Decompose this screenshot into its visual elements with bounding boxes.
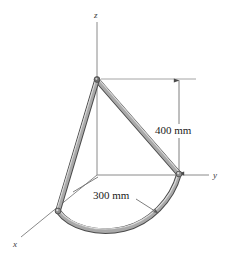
radius-dimension-label: 300 mm	[93, 189, 130, 201]
rod-x-axis-joint	[55, 208, 61, 214]
figure-canvas: z y x 400 mm	[0, 0, 230, 266]
engineering-diagram: z y x 400 mm	[0, 0, 230, 266]
height-dimension-label: 400 mm	[155, 124, 192, 136]
z-axis-label: z	[93, 10, 98, 20]
y-axis-label: y	[212, 170, 217, 180]
rod-apex-joint	[94, 77, 100, 83]
x-axis-label: x	[12, 239, 17, 249]
rod-y-axis-joint	[176, 171, 182, 177]
rod-semicircular-arc	[58, 174, 179, 231]
radius-leader-right	[136, 199, 158, 213]
